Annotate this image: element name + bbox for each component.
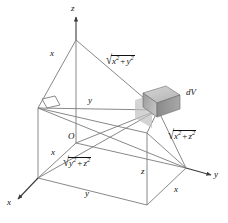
edge-label-x-top: x	[50, 49, 54, 58]
y-axis-line	[186, 168, 211, 175]
edge-label-y-bottom: y	[85, 189, 89, 198]
edge-label-y-mid: y	[88, 96, 92, 105]
dv-label: dV	[186, 88, 196, 97]
expression-sqrt-y2-plus-z2: √ y2+z2	[63, 157, 91, 168]
radical-sign-icon: √	[63, 156, 69, 167]
inner-diagonal	[38, 108, 186, 168]
exp-2: 2	[130, 54, 133, 61]
right-angle-marker	[42, 96, 60, 108]
axis-label-z: z	[71, 4, 75, 13]
math-figure: z y x O x y x y z x dV √ x2+y2 √ x2+z2 √…	[0, 0, 228, 223]
edge-label-z-bottom: z	[141, 167, 145, 176]
radical-sign-icon: √	[168, 129, 174, 140]
floor-rectangle	[38, 143, 186, 205]
radicand-xy: x2+y2	[111, 55, 135, 66]
radical-sign-icon: √	[106, 54, 112, 65]
axis-label-y: y	[214, 170, 218, 179]
axis-label-x: x	[7, 198, 11, 207]
exp-2: 2	[87, 156, 90, 163]
exp-2: 2	[192, 129, 195, 136]
x-axis-line	[18, 178, 38, 199]
edge-label-x-right: x	[174, 185, 178, 194]
expression-sqrt-x2-plus-y2: √ x2+y2	[106, 55, 135, 66]
figure-canvas	[0, 0, 228, 223]
radicand-xz: x2+z2	[173, 130, 196, 141]
origin-label: O	[68, 132, 75, 141]
expression-sqrt-x2-plus-z2: √ x2+z2	[168, 130, 196, 141]
edge-label-x-left: x	[51, 148, 55, 157]
dv-connector-lines	[38, 110, 186, 178]
radicand-yz: y2+z2	[68, 157, 91, 168]
